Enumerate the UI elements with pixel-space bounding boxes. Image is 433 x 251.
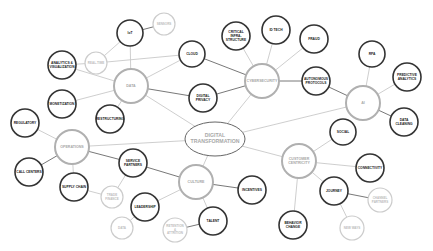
node-label: INCENTIVES: [242, 188, 263, 192]
node-real-time[interactable]: REAL-TIME: [85, 52, 107, 74]
node-behavior-change[interactable]: BEHAVIORCHANGE: [279, 211, 307, 239]
node-journey[interactable]: JOURNEY: [320, 177, 348, 205]
node-label: PARTNERS: [124, 163, 143, 167]
node-monetization[interactable]: MONETIZATION: [48, 90, 76, 118]
node-incentives[interactable]: INCENTIVES: [238, 176, 266, 204]
node-operations[interactable]: OPERATIONS: [55, 130, 89, 164]
node-label: ATTRITION: [167, 231, 183, 235]
node-id-tech[interactable]: ID TECH: [262, 16, 290, 44]
node-label: REGULATORY: [14, 121, 37, 125]
node-label: STRUCTURE: [226, 38, 247, 42]
node-iot[interactable]: IoT: [117, 20, 143, 46]
mind-map-diagram: DIGITALTRANSFORMATIONDATACYBERSECURITYAI…: [0, 0, 433, 251]
node-label: TRANSFORMATION: [191, 138, 240, 144]
node-label: OPERATIONS: [60, 145, 84, 149]
node-new-ways[interactable]: NEW WAYS: [340, 216, 364, 240]
node-rpa[interactable]: RPA: [359, 41, 385, 67]
node-label: CONNECTIVITY: [358, 166, 383, 170]
node-trade-finance[interactable]: TRADEFINANCE: [101, 186, 123, 208]
node-cloud[interactable]: CLOUD: [179, 41, 205, 67]
node-label: CULTURE: [188, 180, 206, 184]
node-ai[interactable]: AI: [346, 86, 380, 120]
node-label: DATA: [118, 226, 127, 230]
node-label: PRIVACY: [196, 98, 211, 102]
node-label: FINANCE: [105, 197, 118, 201]
node-label: SENSORS: [157, 22, 172, 26]
node-channel-partners[interactable]: CHANNELPARTNERS: [368, 188, 392, 212]
node-label: CLEANING: [395, 122, 413, 126]
node-label: RESTRUCTURING: [96, 117, 125, 121]
node-talent[interactable]: TALENT: [199, 207, 227, 235]
node-service-partners[interactable]: SERVICEPARTNERS: [119, 149, 147, 177]
node-label: SUPPLY CHAIN: [62, 185, 87, 189]
node-cybersecurity[interactable]: CYBERSECURITY: [245, 64, 279, 98]
node-leadership[interactable]: LEADERSHIP: [131, 193, 159, 221]
node-data-cleaning[interactable]: DATACLEANING: [390, 108, 418, 136]
node-label: FRAUD: [308, 37, 320, 41]
node-analytics-visualization[interactable]: ANALYTICS &VISUALIZATION: [48, 51, 76, 79]
node-data[interactable]: DATA: [114, 69, 148, 103]
node-sensors[interactable]: SENSORS: [153, 13, 175, 35]
node-label: AI: [361, 101, 365, 105]
node-data[interactable]: DATA: [111, 217, 133, 239]
node-predictive-analytics[interactable]: PREDICTIVEANALYTICS: [393, 63, 421, 91]
node-label: JOURNEY: [326, 189, 343, 193]
node-label: CYBERSECURITY: [247, 79, 278, 83]
node-supply-chain[interactable]: SUPPLY CHAIN: [60, 173, 88, 201]
node-label: VISUALIZATION: [49, 65, 75, 69]
node-label: LEADERSHIP: [134, 205, 156, 209]
node-label: PARTNERS: [372, 200, 388, 204]
node-critical-infra-structure[interactable]: CRITICALINFRA-STRUCTURE: [222, 22, 250, 50]
node-label: PROTOCOLS: [306, 81, 328, 85]
node-customer-centricity[interactable]: CUSTOMERCENTRICITY: [282, 144, 316, 178]
node-label: REAL-TIME: [88, 61, 104, 65]
node-digital-privacy[interactable]: DIGITALPRIVACY: [189, 84, 217, 112]
node-label: MONETIZATION: [50, 102, 75, 106]
node-label: ANALYTICS: [398, 77, 417, 81]
node-label: CLOUD: [186, 52, 198, 56]
node-label: CHANGE: [286, 225, 301, 229]
node-social[interactable]: SOCIAL: [330, 119, 356, 145]
node-restructuring[interactable]: RESTRUCTURING: [96, 105, 125, 133]
node-label: DATA: [126, 84, 136, 88]
node-label: RPA: [369, 52, 376, 56]
node-call-centers[interactable]: CALL CENTERS: [15, 158, 43, 186]
node-fraud[interactable]: FRAUD: [300, 25, 328, 53]
node-retention-attrition[interactable]: RETENTION&ATTRITION: [163, 218, 187, 242]
node-digital-transformation[interactable]: DIGITALTRANSFORMATION: [185, 122, 245, 156]
node-culture[interactable]: CULTURE: [179, 165, 213, 199]
node-label: IoT: [128, 31, 133, 35]
node-label: NEW WAYS: [344, 226, 360, 230]
node-label: CENTRICITY: [288, 161, 310, 165]
node-label: TALENT: [207, 219, 220, 223]
node-label: SOCIAL: [337, 130, 349, 134]
node-regulatory[interactable]: REGULATORY: [11, 109, 39, 137]
node-label: CALL CENTERS: [16, 170, 42, 174]
topic-nodes: DIGITALTRANSFORMATIONDATACYBERSECURITYAI…: [11, 13, 421, 242]
node-label: ID TECH: [269, 28, 283, 32]
node-autonomous-protocols[interactable]: AUTONOMOUSPROTOCOLS: [302, 67, 330, 95]
node-connectivity[interactable]: CONNECTIVITY: [356, 154, 384, 182]
